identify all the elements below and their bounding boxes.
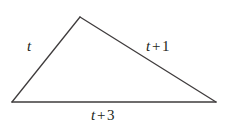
side-label-left: t bbox=[27, 39, 31, 54]
side-label-right-operator: + bbox=[152, 38, 161, 54]
side-label-right-variable: t bbox=[146, 38, 150, 54]
triangle-side-right bbox=[80, 17, 216, 102]
side-label-right: t+1 bbox=[146, 39, 170, 54]
side-label-base: t+3 bbox=[91, 108, 115, 123]
side-label-base-number: 3 bbox=[107, 107, 115, 123]
side-label-base-variable: t bbox=[91, 107, 95, 123]
side-label-base-operator: + bbox=[97, 107, 106, 123]
triangle-diagram-canvas: t t+1 t+3 bbox=[0, 0, 227, 128]
side-label-right-number: 1 bbox=[162, 38, 170, 54]
triangle-side-left bbox=[12, 17, 80, 102]
